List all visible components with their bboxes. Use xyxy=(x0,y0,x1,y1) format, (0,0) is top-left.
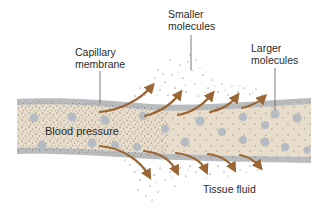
escaping-small-molecules-blue xyxy=(147,67,253,95)
capillary-diagram xyxy=(0,0,329,210)
label-capillary-line2: membrane xyxy=(75,58,125,70)
label-larger-line1: Larger xyxy=(251,42,298,54)
label-capillary-line1: Capillary xyxy=(75,46,125,58)
label-smaller-line2: molecules xyxy=(168,20,215,32)
escaping-small-molecules-top xyxy=(134,55,262,97)
leader-lines xyxy=(100,35,275,110)
label-capillary-membrane: Capillary membrane xyxy=(75,46,125,70)
label-larger-molecules: Larger molecules xyxy=(251,42,298,66)
label-blood-pressure: Blood pressure xyxy=(45,125,119,137)
label-larger-line2: molecules xyxy=(251,54,298,66)
label-tissue-fluid: Tissue fluid xyxy=(203,183,256,195)
label-smaller-molecules: Smaller molecules xyxy=(168,8,215,32)
escaping-small-molecules-bottom-blue xyxy=(137,169,246,182)
label-smaller-line1: Smaller xyxy=(168,8,215,20)
small-molecules-sparse xyxy=(160,100,311,162)
